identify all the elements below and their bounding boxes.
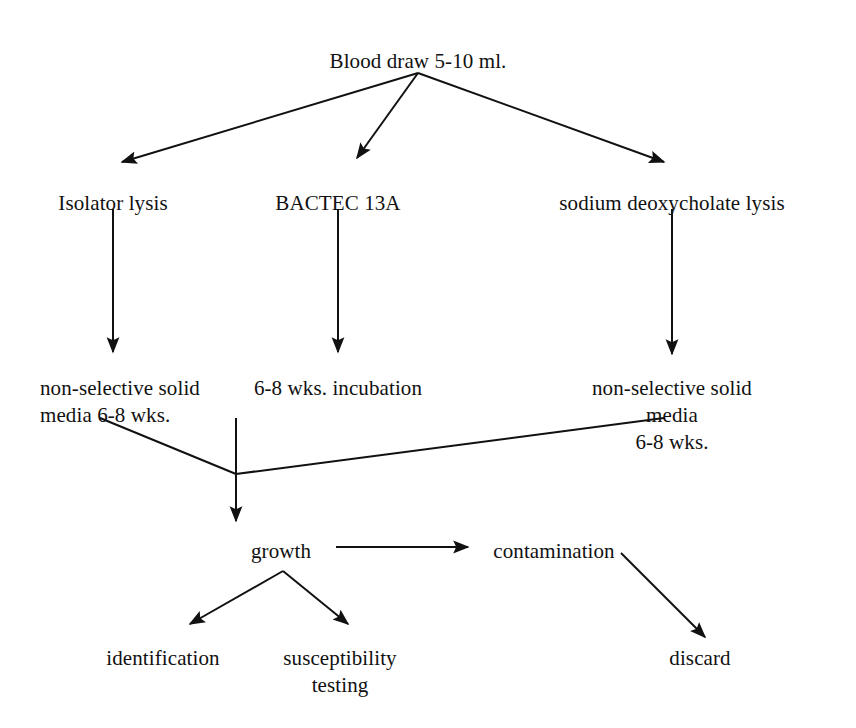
node-isolator: Isolator lysis — [58, 190, 167, 217]
edge-blood-to-sodium — [418, 73, 664, 162]
node-media_right: non-selective solid media 6-8 wks. — [580, 375, 764, 456]
node-blood_draw: Blood draw 5-10 ml. — [330, 48, 507, 75]
node-discard: discard — [669, 645, 730, 672]
edge-growth-to-susceptibility — [283, 571, 348, 624]
edge-contamination-to-discard — [621, 553, 705, 637]
node-sodium_deoxy: sodium deoxycholate lysis — [559, 190, 784, 217]
node-media_left: non-selective solid media 6-8 wks. — [40, 375, 200, 429]
node-incubation: 6-8 wks. incubation — [254, 375, 422, 402]
node-growth: growth — [251, 538, 311, 565]
node-contamination: contamination — [493, 538, 614, 565]
flowchart-edges — [0, 0, 856, 728]
edge-blood-to-bactec — [357, 73, 418, 158]
node-identification: identification — [106, 645, 219, 672]
node-bactec: BACTEC 13A — [275, 190, 400, 217]
node-susceptibility: susceptibility testing — [283, 645, 396, 699]
edge-blood-to-isolator — [122, 73, 418, 162]
edge-growth-to-identification — [190, 571, 283, 624]
flowchart-canvas: Blood draw 5-10 ml.Isolator lysisBACTEC … — [0, 0, 856, 728]
